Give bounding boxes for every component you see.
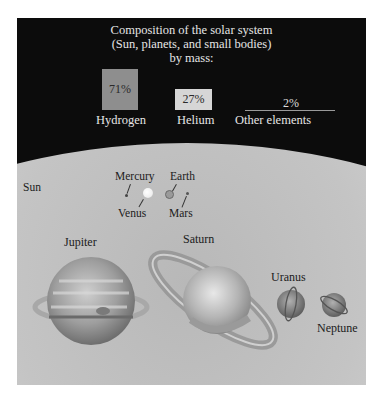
other-elements-label: Other elements bbox=[235, 113, 311, 128]
diagram-title: Composition of the solar system (Sun, pl… bbox=[17, 23, 366, 65]
hydrogen-block: 71% bbox=[102, 69, 138, 110]
title-line-1: Composition of the solar system bbox=[17, 23, 366, 37]
helium-label: Helium bbox=[177, 113, 215, 128]
venus-icon bbox=[143, 188, 153, 198]
mercury-label: Mercury bbox=[115, 170, 155, 182]
mercury-icon bbox=[125, 194, 128, 197]
helium-block: 27% bbox=[175, 89, 212, 110]
venus-label: Venus bbox=[118, 207, 146, 219]
jupiter-label: Jupiter bbox=[64, 235, 97, 250]
title-line-3: by mass: bbox=[17, 51, 366, 65]
solar-system-diagram: Composition of the solar system (Sun, pl… bbox=[17, 18, 366, 385]
jupiter-icon bbox=[27, 251, 157, 351]
uranus-icon bbox=[273, 286, 309, 322]
sun-label: Sun bbox=[23, 181, 41, 193]
hydrogen-percent: 71% bbox=[109, 82, 131, 97]
earth-icon bbox=[165, 190, 174, 199]
saturn-icon bbox=[143, 240, 283, 360]
uranus-label: Uranus bbox=[271, 270, 306, 285]
other-elements-line bbox=[245, 110, 335, 111]
neptune-label: Neptune bbox=[317, 321, 358, 336]
neptune-icon bbox=[317, 291, 351, 319]
helium-percent: 27% bbox=[183, 92, 205, 107]
other-elements-percent: 2% bbox=[263, 96, 319, 111]
earth-label: Earth bbox=[170, 170, 195, 182]
title-line-2: (Sun, planets, and small bodies) bbox=[17, 37, 366, 51]
mars-icon bbox=[186, 192, 189, 195]
hydrogen-label: Hydrogen bbox=[96, 113, 146, 128]
mars-label: Mars bbox=[169, 207, 193, 219]
